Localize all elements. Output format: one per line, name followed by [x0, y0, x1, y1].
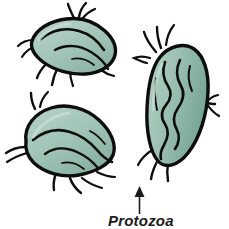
leader-arrow	[135, 186, 145, 214]
arrow-head-icon	[135, 186, 145, 197]
protozoa-label: Protozoa	[108, 213, 174, 228]
protozoan-top-left	[18, 3, 116, 86]
protozoa-figure: Protozoa	[0, 0, 229, 229]
protozoa-illustration	[0, 0, 229, 229]
protozoan-bottom-left	[6, 92, 115, 193]
protozoan-right	[134, 25, 219, 181]
cell-body-bottom-left	[26, 106, 114, 176]
